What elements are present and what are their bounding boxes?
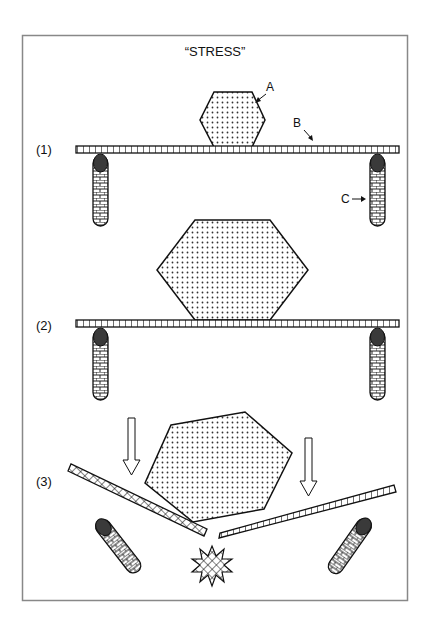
beam-b [76, 146, 399, 153]
beam [76, 320, 399, 327]
stage-1: (1) A B C [36, 80, 399, 226]
falling-pillar-right [325, 515, 375, 577]
stage-1-label: (1) [36, 142, 52, 157]
falling-block [145, 412, 292, 522]
stress-diagram: “STRESS” (1) A B C (2) [0, 0, 428, 635]
callout-c-label: C [341, 192, 350, 206]
stage-3-label: (3) [36, 474, 52, 489]
callout-a-label: A [266, 80, 274, 94]
pillar-cap-icon [94, 328, 108, 346]
stage-2: (2) [36, 220, 399, 400]
callout-b-label: B [293, 116, 301, 130]
pillar-cap-icon [371, 154, 385, 172]
stage-3: (3) [36, 412, 396, 586]
pillar-cap-icon [371, 328, 385, 346]
pillar-right [370, 328, 385, 400]
large-block [157, 220, 308, 320]
falling-pillar-left [92, 515, 144, 575]
arrowhead-icon [361, 196, 366, 202]
pillar-right [370, 154, 385, 226]
down-arrow-right-icon [300, 438, 317, 496]
pillar-left [93, 154, 108, 226]
down-arrow-left-icon [123, 418, 140, 475]
pillar-left [93, 328, 108, 400]
block-a [200, 92, 265, 147]
impact-burst-icon [192, 546, 232, 586]
diagram-title: “STRESS” [185, 44, 246, 59]
stage-2-label: (2) [36, 318, 52, 333]
pillar-cap-icon [94, 154, 108, 172]
